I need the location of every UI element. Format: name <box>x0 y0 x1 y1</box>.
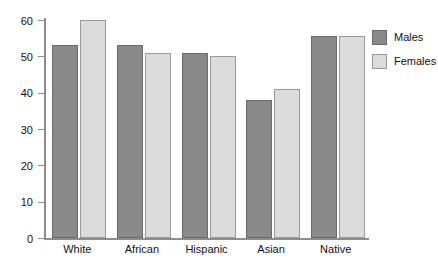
y-axis-tick: 60 <box>38 20 45 21</box>
legend-swatch-females <box>372 54 387 69</box>
bar-group <box>117 20 171 238</box>
bar-group <box>246 20 300 238</box>
bar-native-males[interactable] <box>311 36 337 238</box>
y-axis-tick-label: 30 <box>21 124 33 135</box>
x-axis-label-white: White <box>45 244 110 255</box>
legend-item-females[interactable]: Females <box>372 54 436 69</box>
legend-item-males[interactable]: Males <box>372 30 436 45</box>
y-axis-tick-label: 40 <box>21 88 33 99</box>
chart-legend: Males Females <box>372 30 436 78</box>
legend-label-males: Males <box>394 32 423 43</box>
x-axis-label-african: African <box>110 244 175 255</box>
y-axis-tick: 10 <box>38 202 45 203</box>
bar-group <box>52 20 106 238</box>
y-axis-tick-label: 60 <box>21 15 33 26</box>
bar-asian-males[interactable] <box>246 100 272 238</box>
bar-group <box>311 20 365 238</box>
bar-white-females[interactable] <box>80 20 106 238</box>
bar-white-males[interactable] <box>52 45 78 238</box>
y-axis-tick: 0 <box>38 238 45 239</box>
bar-group <box>182 20 236 238</box>
x-axis-label-hispanic: Hispanic <box>174 244 239 255</box>
bar-asian-females[interactable] <box>274 89 300 238</box>
bar-hispanic-males[interactable] <box>182 53 208 238</box>
y-axis-tick: 30 <box>38 129 45 130</box>
legend-label-females: Females <box>394 56 436 67</box>
y-axis-tick-label: 10 <box>21 197 33 208</box>
legend-swatch-males <box>372 30 387 45</box>
y-axis-tick-label: 0 <box>27 233 33 244</box>
x-axis-label-native: Native <box>303 244 368 255</box>
bar-native-females[interactable] <box>339 36 365 238</box>
y-axis-tick: 20 <box>38 165 45 166</box>
x-axis-label-asian: Asian <box>239 244 304 255</box>
y-axis-tick-label: 50 <box>21 51 33 62</box>
plot-area <box>45 20 368 238</box>
y-axis-tick: 40 <box>38 93 45 94</box>
x-axis-line <box>44 238 369 240</box>
y-axis-tick: 50 <box>38 56 45 57</box>
y-axis-tick-label: 20 <box>21 160 33 171</box>
bar-african-females[interactable] <box>145 53 171 238</box>
bar-hispanic-females[interactable] <box>210 56 236 238</box>
bar-chart: 0102030405060 WhiteAfricanHispanicAsianN… <box>0 0 438 267</box>
bar-african-males[interactable] <box>117 45 143 238</box>
